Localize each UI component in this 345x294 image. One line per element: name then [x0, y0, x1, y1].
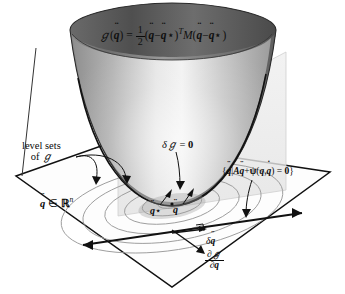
variation-zero: 0 — [188, 139, 193, 150]
gradient-fraction: ∂ℊ ∂q — [205, 250, 224, 271]
formula-qddot-star-b: q — [209, 29, 215, 41]
formula-G: ℊ — [99, 29, 110, 41]
set-brace-close: } — [289, 166, 294, 176]
set-equals: = — [277, 166, 282, 176]
set-qddot: q — [227, 167, 232, 177]
formula-M: M — [183, 29, 193, 41]
gradient-denominator: ∂q — [205, 260, 224, 271]
constraint-line-right-arrowhead — [292, 208, 302, 218]
level-sets-line2: of ℊ — [22, 151, 61, 162]
q-star-label: q⋆ — [150, 206, 161, 217]
level-sets-label: level sets of ℊ — [22, 140, 61, 162]
domain-exponent: n — [70, 195, 74, 204]
variation-zero-label: δℊ = 0 — [162, 139, 193, 150]
delta-qddot-qddot: q — [210, 237, 215, 247]
constraint-set-label: {q|Aq+ψ(q,q) = 0} — [222, 167, 294, 177]
q-star-symbol: ⋆ — [155, 205, 161, 216]
formula-g2-close: ) — [222, 29, 226, 41]
formula-star-a: ⋆ — [167, 29, 175, 41]
gauss-principle-figure: ℊ(q) = 12(q−q⋆)TM(q−q⋆) level sets of ℊ … — [0, 0, 345, 294]
level-sets-line1: level sets — [22, 140, 61, 151]
gradient-label: ∂ℊ ∂q — [205, 250, 224, 271]
variation-G: ℊ — [167, 139, 177, 150]
formula-paren-close: ) — [120, 29, 124, 41]
domain-qddot: q — [40, 198, 45, 209]
formula-half-num: 1 — [136, 25, 145, 36]
domain-in: ∈ — [48, 198, 58, 209]
set-qdot: q — [267, 167, 272, 177]
q-star-qddot: q — [150, 206, 155, 217]
delta-qddot-label: δq — [206, 237, 215, 247]
level-sets-of: of — [31, 151, 40, 162]
formula-half-den: 2 — [136, 36, 145, 48]
set-qddot2: q — [240, 167, 245, 177]
formula-qddot-a: q — [149, 29, 155, 41]
level-sets-G: ℊ — [42, 151, 52, 162]
formula-qddot-star-a: q — [161, 29, 167, 41]
domain-reals: ℝ — [61, 198, 70, 209]
q-point-qddot: q — [173, 205, 178, 216]
gradient-qddot: q — [214, 261, 219, 271]
objective-formula: ℊ(q) = 12(q−q⋆)TM(q−q⋆) — [99, 25, 226, 47]
variation-equals: = — [180, 139, 186, 150]
formula-qddot: q — [114, 29, 120, 41]
domain-label: q ∈ ℝn — [40, 196, 73, 209]
q-point-label: q — [173, 205, 178, 216]
formula-half: 12 — [136, 25, 145, 47]
formula-equals: = — [126, 29, 133, 41]
formula-qddot-b: q — [196, 29, 202, 41]
set-paren-close: ) — [271, 166, 274, 176]
constraint-line-left-arrowhead — [83, 240, 93, 250]
